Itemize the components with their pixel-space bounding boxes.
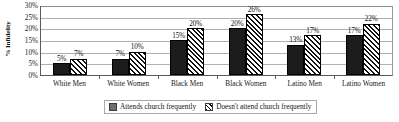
bar-group: 5%7% bbox=[41, 6, 100, 75]
x-axis-category-label: White Women bbox=[99, 79, 158, 93]
bar-value-label: 15% bbox=[172, 32, 185, 40]
bar-attends-church[interactable]: 20% bbox=[229, 28, 246, 75]
bar-value-label: 20% bbox=[231, 20, 244, 28]
bar-group: 17%22% bbox=[334, 6, 393, 75]
bar-attends-church[interactable]: 5% bbox=[53, 63, 70, 75]
bar-not-attends-church[interactable]: 22% bbox=[363, 24, 380, 75]
bar-not-attends-church[interactable]: 17% bbox=[304, 35, 321, 75]
legend-swatch-hatched-icon bbox=[205, 103, 213, 111]
x-axis-category-label: Black Women bbox=[216, 79, 275, 93]
y-axis-tick-label: 5% bbox=[28, 61, 38, 68]
bar-value-label: 10% bbox=[131, 43, 144, 51]
legend-label: Attends church frequently bbox=[120, 103, 196, 111]
bar-value-label: 20% bbox=[189, 20, 202, 28]
y-axis-tick-labels: 30%25%20%15%10%5%0% bbox=[13, 3, 39, 79]
bar-value-label: 26% bbox=[248, 6, 261, 14]
bar-not-attends-church[interactable]: 26% bbox=[246, 14, 263, 75]
y-axis-tick-label: 20% bbox=[25, 26, 38, 33]
bar-value-label: 13% bbox=[289, 36, 302, 44]
bar-not-attends-church[interactable]: 7% bbox=[70, 59, 87, 75]
x-axis-category-label: Black Men bbox=[158, 79, 217, 93]
legend-entry[interactable]: Attends church frequently bbox=[109, 103, 196, 111]
y-axis-tick-label: 15% bbox=[25, 38, 38, 45]
x-axis-category-labels: White MenWhite WomenBlack MenBlack Women… bbox=[40, 79, 393, 93]
y-axis-tick-label: 10% bbox=[25, 49, 38, 56]
bar-value-label: 17% bbox=[306, 27, 319, 35]
bar-attends-church[interactable]: 17% bbox=[346, 35, 363, 75]
bar-value-label: 17% bbox=[348, 27, 361, 35]
infidelity-bar-chart: % Infidelity 30%25%20%15%10%5%0% 5%7%7%1… bbox=[0, 0, 399, 122]
bar-group: 7%10% bbox=[100, 6, 159, 75]
bar-group: 15%20% bbox=[158, 6, 217, 75]
bar-attends-church[interactable]: 13% bbox=[287, 45, 304, 75]
y-axis-tick-label: 25% bbox=[25, 14, 38, 21]
legend-label: Doesn't attend church frequently bbox=[216, 103, 311, 111]
bar-not-attends-church[interactable]: 10% bbox=[129, 52, 146, 75]
y-axis-title-text: % Infidelity bbox=[4, 21, 12, 56]
legend-entry[interactable]: Doesn't attend church frequently bbox=[205, 103, 311, 111]
x-axis-category-label: Latino Women bbox=[334, 79, 393, 93]
bar-group: 20%26% bbox=[217, 6, 276, 75]
x-axis-category-label: White Men bbox=[40, 79, 99, 93]
legend-swatch-solid-icon bbox=[109, 103, 117, 111]
chart-legend: Attends church frequentlyDoesn't attend … bbox=[104, 100, 317, 114]
bar-attends-church[interactable]: 7% bbox=[112, 59, 129, 75]
bar-group: 13%17% bbox=[275, 6, 334, 75]
bar-value-label: 5% bbox=[57, 55, 67, 63]
x-axis-category-label: Latino Men bbox=[275, 79, 334, 93]
bar-value-label: 22% bbox=[365, 15, 378, 23]
plot-area: 5%7%7%10%15%20%20%26%13%17%17%22% bbox=[40, 6, 393, 76]
y-axis-tick-label: 30% bbox=[25, 3, 38, 10]
bars-layer: 5%7%7%10%15%20%20%26%13%17%17%22% bbox=[41, 6, 392, 75]
bar-attends-church[interactable]: 15% bbox=[170, 40, 187, 75]
bar-not-attends-church[interactable]: 20% bbox=[187, 28, 204, 75]
bar-value-label: 7% bbox=[74, 50, 84, 58]
bar-value-label: 7% bbox=[115, 50, 125, 58]
y-axis-tick-label: 0% bbox=[28, 73, 38, 80]
